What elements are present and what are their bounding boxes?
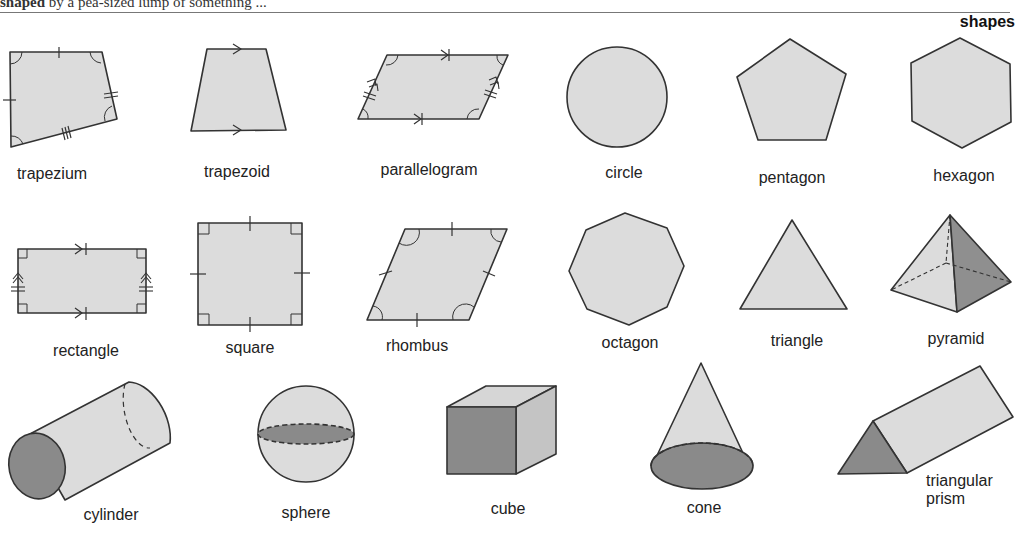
label-parallelogram: parallelogram [381, 161, 478, 179]
label-triangle: triangle [771, 332, 823, 350]
pyramid-shape [891, 215, 1011, 312]
label-rectangle: rectangle [53, 342, 119, 360]
label-triangular-prism-line1: triangular [926, 472, 993, 490]
cube-shape [447, 386, 556, 474]
label-sphere: sphere [282, 504, 331, 522]
label-pyramid: pyramid [928, 330, 985, 348]
octagon-shape [569, 213, 684, 325]
label-square: square [226, 339, 275, 357]
cone-shape [651, 363, 753, 489]
label-triangular-prism-line2: prism [926, 490, 993, 508]
triangle-shape [740, 220, 847, 309]
label-circle: circle [605, 164, 642, 182]
hexagon-shape [911, 38, 1011, 148]
label-cone: cone [687, 499, 722, 517]
triangular-prism-shape [838, 366, 1013, 474]
label-octagon: octagon [602, 334, 659, 352]
sphere-shape [258, 386, 354, 482]
label-rhombus: rhombus [386, 337, 448, 355]
label-triangular-prism: triangular prism [926, 472, 993, 507]
parallelogram-shape [358, 49, 508, 125]
trapezoid-shape [191, 44, 286, 135]
square-shape [190, 216, 310, 332]
cylinder-shape [3, 382, 171, 504]
rhombus-shape [367, 222, 507, 327]
label-trapezoid: trapezoid [204, 163, 270, 181]
circle-shape [567, 47, 667, 147]
rectangle-shape [11, 243, 153, 320]
trapezium-shape [3, 47, 118, 147]
label-pentagon: pentagon [759, 169, 826, 187]
label-hexagon: hexagon [933, 167, 994, 185]
label-trapezium: trapezium [17, 165, 87, 183]
label-cylinder: cylinder [83, 506, 138, 524]
shapes-illustration [0, 0, 1025, 533]
label-cube: cube [491, 500, 526, 518]
pentagon-shape [737, 39, 846, 140]
